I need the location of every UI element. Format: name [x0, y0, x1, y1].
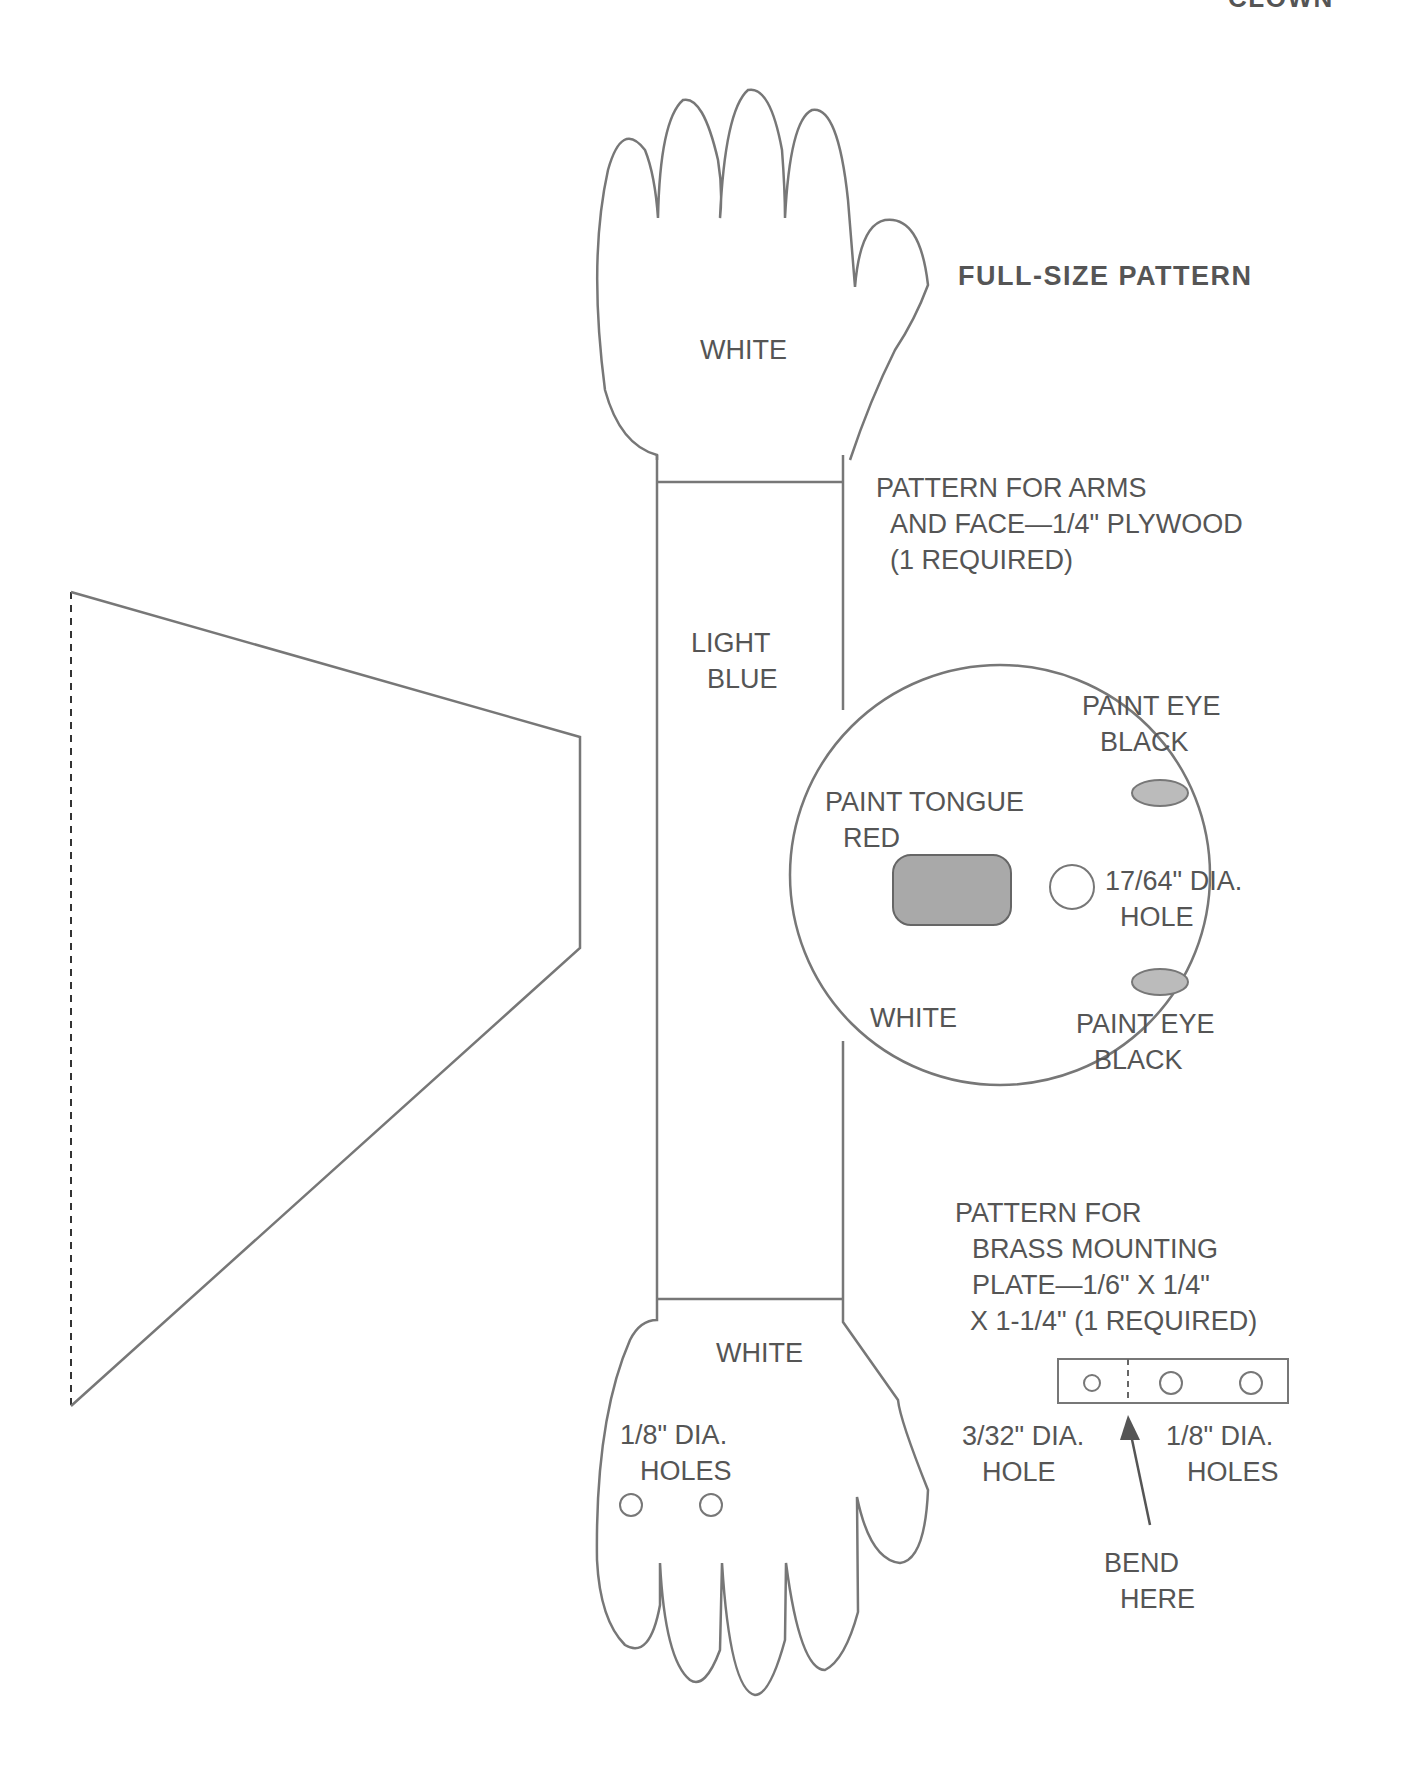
plate-holes-label-line1: 1/8" DIA.: [1166, 1418, 1273, 1454]
bend-label-line1: BEND: [1104, 1545, 1179, 1581]
plate-caption-line4: X 1-1/4" (1 REQUIRED): [970, 1303, 1257, 1339]
plate-holes-label-line2: HOLES: [1187, 1454, 1279, 1490]
bend-label-line2: HERE: [1120, 1581, 1195, 1617]
small-hole-label-line1: 3/32" DIA.: [962, 1418, 1084, 1454]
plate-caption-line1: PATTERN FOR: [955, 1195, 1142, 1231]
tongue-label-line2: RED: [843, 820, 900, 856]
arms-caption-line2: AND FACE—1/4" PLYWOOD: [890, 506, 1243, 542]
top-hand-color-label: WHITE: [700, 332, 787, 368]
plate-caption-line3: PLATE—1/6" X 1/4": [972, 1267, 1210, 1303]
top-eye-label-line2: BLACK: [1100, 724, 1189, 760]
trapezoid-pattern: [71, 592, 580, 1406]
bottom-eye-label-line1: PAINT EYE: [1076, 1006, 1215, 1042]
face-color-label: WHITE: [870, 1000, 957, 1036]
tongue-label-line1: PAINT TONGUE: [825, 784, 1024, 820]
arms-caption-line3: (1 REQUIRED): [890, 542, 1073, 578]
hand-holes-label-line2: HOLES: [640, 1453, 732, 1489]
running-title: CLOWN: [1228, 0, 1334, 16]
arm-color-label-line1: LIGHT: [691, 625, 771, 661]
hole-label-line1: 17/64" DIA.: [1105, 863, 1242, 899]
bottom-eye-label-line2: BLACK: [1094, 1042, 1183, 1078]
arm-color-label-line2: BLUE: [707, 661, 778, 697]
arms-caption-line1: PATTERN FOR ARMS: [876, 470, 1147, 506]
small-hole-label-line2: HOLE: [982, 1454, 1056, 1490]
top-eye-label-line1: PAINT EYE: [1082, 688, 1221, 724]
full-size-pattern-label: FULL-SIZE PATTERN: [958, 258, 1252, 294]
hole-label-line2: HOLE: [1120, 899, 1194, 935]
bottom-hand-color-label: WHITE: [716, 1335, 803, 1371]
hand-holes-label-line1: 1/8" DIA.: [620, 1417, 727, 1453]
plate-caption-line2: BRASS MOUNTING: [972, 1231, 1218, 1267]
